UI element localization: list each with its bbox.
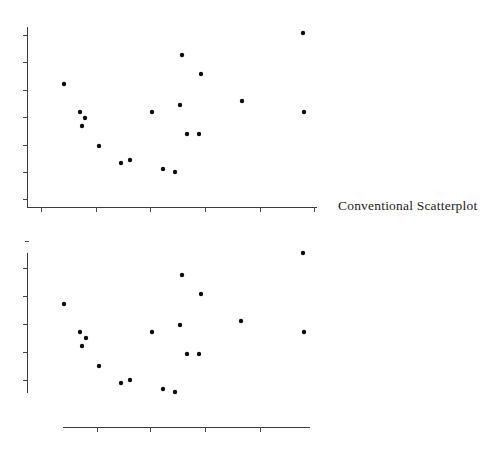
data-point-13 [197, 132, 201, 136]
figure-range-frame-comparison: Conventional Scatterplot Range-Frame [0, 0, 504, 458]
data-point-13 [197, 352, 201, 356]
data-point-11 [180, 53, 184, 57]
data-point-5 [119, 381, 123, 385]
data-point-9 [173, 390, 177, 394]
data-point-7 [150, 330, 154, 334]
data-point-4 [97, 364, 101, 368]
data-point-4 [97, 144, 101, 148]
data-point-3 [80, 344, 84, 348]
data-point-0 [62, 302, 66, 306]
data-point-10 [178, 323, 182, 327]
data-point-2 [84, 336, 88, 340]
data-point-14 [199, 72, 203, 76]
data-point-1 [78, 330, 82, 334]
data-point-10 [178, 103, 182, 107]
data-point-6 [128, 378, 132, 382]
data-point-11 [180, 273, 184, 277]
data-point-17 [302, 110, 306, 114]
data-point-15 [240, 99, 244, 103]
data-point-8 [161, 167, 165, 171]
data-point-9 [173, 170, 177, 174]
data-point-15 [239, 319, 243, 323]
data-point-12 [185, 352, 189, 356]
data-point-7 [150, 110, 154, 114]
conventional-scatterplot-plot-area [0, 0, 504, 228]
data-point-3 [80, 124, 84, 128]
range-frame-plot-area [0, 220, 504, 458]
panel-label-conventional: Conventional Scatterplot [338, 199, 477, 213]
data-point-0 [62, 82, 66, 86]
data-point-5 [119, 161, 123, 165]
panel-conventional-scatterplot: Conventional Scatterplot [0, 0, 504, 228]
data-point-12 [185, 132, 189, 136]
data-point-16 [301, 251, 305, 255]
data-point-2 [83, 116, 87, 120]
panel-range-frame: Range-Frame [0, 220, 504, 458]
data-point-17 [302, 330, 306, 334]
data-point-8 [161, 387, 165, 391]
data-point-16 [301, 31, 305, 35]
data-point-14 [199, 292, 203, 296]
data-point-6 [128, 158, 132, 162]
data-point-1 [78, 110, 82, 114]
